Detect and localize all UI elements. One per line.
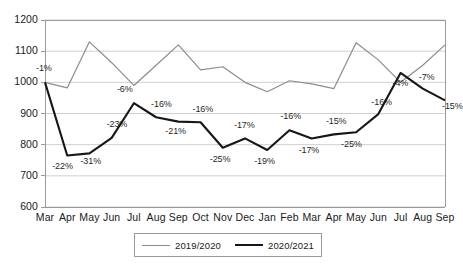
chart-legend: 2019/2020 2020/2021 [134, 233, 322, 257]
data-label-sep-18: -15% [442, 101, 463, 111]
data-label-apr-13: -15% [326, 116, 347, 126]
data-label-feb-11: -16% [280, 111, 301, 121]
data-label-apr-1: -22% [52, 161, 73, 171]
legend-item-2019-2020: 2019/2020 [142, 240, 221, 251]
y-axis-tick-1000: 1000 [6, 75, 38, 87]
data-label-aug-17: -7% [419, 72, 435, 82]
data-label-jun-15: -16% [371, 97, 392, 107]
data-label-oct-7: -16% [193, 104, 214, 114]
data-label-mar-12: -17% [299, 145, 320, 155]
data-label-jan-10: -19% [254, 156, 275, 166]
data-label-jul-16: -4% [393, 78, 409, 88]
legend-line-icon-old [142, 245, 170, 246]
legend-line-icon-new [235, 244, 263, 246]
series-line-2020-2021 [45, 73, 445, 156]
data-label-may-2: -31% [80, 156, 101, 166]
axis-tick-marks [41, 20, 45, 207]
gridlines [45, 20, 445, 207]
legend-label-new: 2020/2021 [268, 240, 314, 251]
data-label-sep-6: -21% [165, 126, 186, 136]
data-label-may-14: -25% [341, 139, 362, 149]
data-label-nov-8: -25% [210, 154, 231, 164]
y-axis-tick-800: 800 [6, 138, 38, 150]
legend-label-old: 2019/2020 [175, 240, 221, 251]
data-label-aug-5: -16% [151, 99, 172, 109]
data-label-dec-9: -17% [234, 120, 255, 130]
data-label-jul-4: -6% [117, 84, 133, 94]
x-axis-tick-18: Sep [432, 211, 458, 223]
legend-item-2020-2021: 2020/2021 [235, 240, 314, 251]
data-label-jun-3: -23% [107, 119, 128, 129]
data-label-mar-0: -1% [36, 63, 52, 73]
y-axis-tick-700: 700 [6, 169, 38, 181]
y-axis-tick-900: 900 [6, 107, 38, 119]
y-axis-tick-1200: 1200 [6, 13, 38, 25]
series-line-2019-2020 [45, 42, 445, 92]
y-axis-tick-1100: 1100 [6, 44, 38, 56]
